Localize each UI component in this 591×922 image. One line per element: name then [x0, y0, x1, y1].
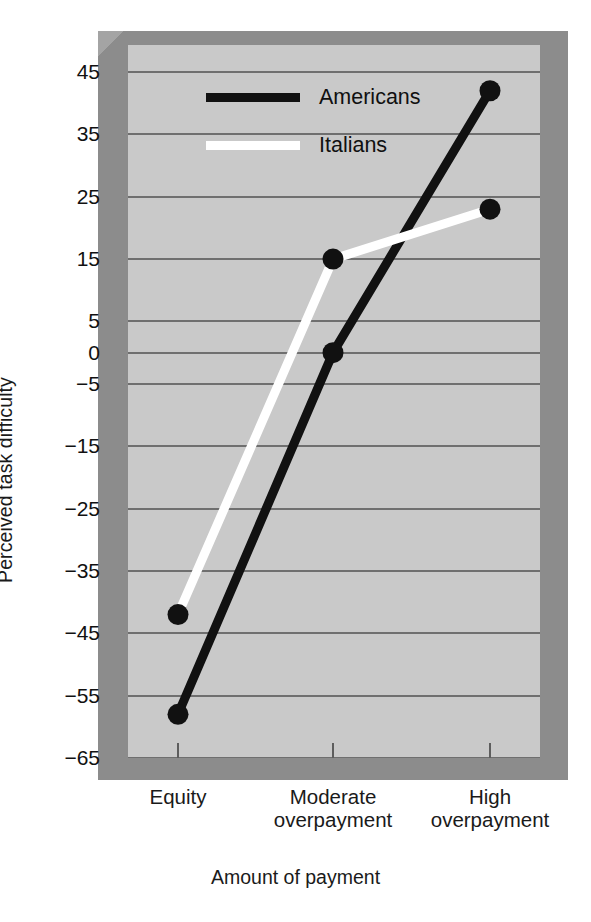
x-tick-label: Moderate overpayment	[274, 786, 393, 832]
y-tick-label: −5	[26, 373, 100, 394]
y-tick-label: 45	[26, 61, 100, 82]
chart-frame: Americans Italians	[98, 31, 568, 780]
legend-swatch-italians	[206, 141, 300, 150]
data-point-italians	[168, 604, 189, 625]
legend-swatch-americans	[206, 93, 300, 102]
series-line-americans	[178, 91, 490, 715]
legend-label-italians: Italians	[319, 135, 387, 157]
x-axis-tick-labels: EquityModerate overpaymentHigh overpayme…	[98, 786, 568, 856]
data-point-americans	[168, 704, 189, 725]
legend-entry-italians: Italians	[206, 135, 387, 157]
legend-label-americans: Americans	[319, 87, 421, 109]
data-point-italians	[480, 199, 501, 220]
chart-legend: Americans Italians	[206, 73, 506, 165]
y-tick-label: −55	[26, 685, 100, 706]
x-tick-label: Equity	[150, 786, 207, 809]
legend-entry-americans: Americans	[206, 87, 421, 109]
chart-figure: Americans Italians 4535251550−5−15−25−35…	[0, 0, 591, 922]
y-tick-label: −25	[26, 498, 100, 519]
y-axis-tick-labels: 4535251550−5−15−25−35−45−55−65	[20, 31, 100, 780]
y-tick-label: −35	[26, 560, 100, 581]
y-axis-title: Perceived task difficulty	[0, 330, 17, 630]
x-axis-title: Amount of payment	[0, 866, 591, 889]
y-tick-label: 35	[26, 123, 100, 144]
y-tick-label: 15	[26, 248, 100, 269]
y-tick-label: 5	[26, 310, 100, 331]
series-line-italians	[178, 209, 490, 614]
plot-area: Americans Italians	[128, 45, 540, 758]
y-tick-label: 0	[26, 342, 100, 363]
y-tick-label: −15	[26, 435, 100, 456]
data-point-italians	[323, 249, 344, 270]
y-tick-label: −65	[26, 747, 100, 768]
x-tick-label: High overpayment	[431, 786, 550, 832]
y-tick-label: −45	[26, 622, 100, 643]
y-tick-label: 25	[26, 186, 100, 207]
data-point-americans	[323, 342, 344, 363]
